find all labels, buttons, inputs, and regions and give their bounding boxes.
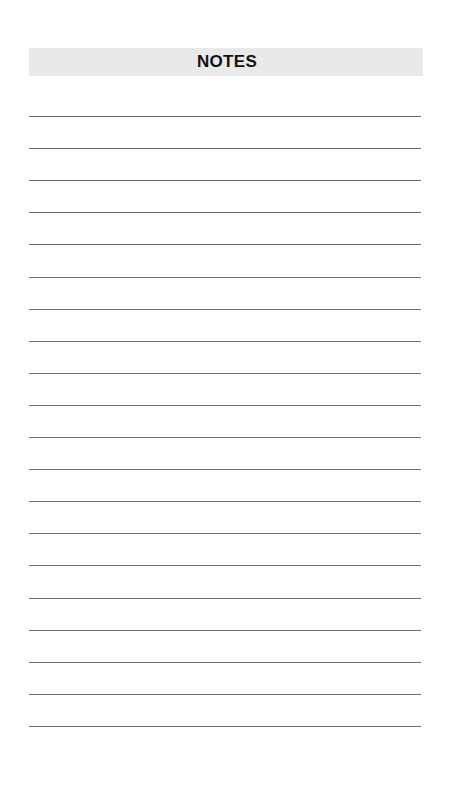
ruled-line	[29, 373, 421, 374]
ruled-line	[29, 405, 421, 406]
ruled-line	[29, 598, 421, 599]
notes-header-band: NOTES	[29, 48, 423, 76]
ruled-line	[29, 662, 421, 663]
ruled-line	[29, 469, 421, 470]
ruled-line	[29, 277, 421, 278]
ruled-line	[29, 630, 421, 631]
ruled-line	[29, 116, 421, 117]
ruled-line	[29, 341, 421, 342]
ruled-line	[29, 437, 421, 438]
ruled-line	[29, 212, 421, 213]
ruled-line	[29, 180, 421, 181]
ruled-line	[29, 726, 421, 727]
ruled-line	[29, 148, 421, 149]
ruled-line	[29, 244, 421, 245]
ruled-line	[29, 501, 421, 502]
ruled-line	[29, 533, 421, 534]
ruled-line	[29, 565, 421, 566]
page-title: NOTES	[197, 52, 257, 72]
ruled-line	[29, 309, 421, 310]
ruled-line	[29, 694, 421, 695]
